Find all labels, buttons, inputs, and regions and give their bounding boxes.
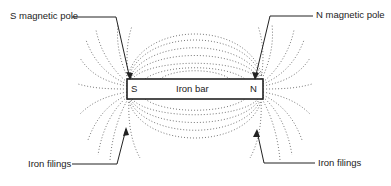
arrow-icon [253,129,260,137]
label-s-magnetic-pole: S magnetic pole [10,11,78,21]
label-iron-filings-left: Iron filings [28,159,71,169]
arrow-icon [123,127,129,136]
leader-filings-right [257,131,315,163]
label-n-magnetic-pole: N magnetic pole [316,10,385,20]
bar-pole-n: N [250,84,257,94]
label-iron-filings-right: Iron filings [318,158,361,168]
leader-s-pole [72,17,130,79]
bar-pole-s: S [131,84,137,94]
bar-label: Iron bar [176,84,209,94]
leader-filings-left [72,129,126,164]
leader-n-pole [255,16,313,79]
